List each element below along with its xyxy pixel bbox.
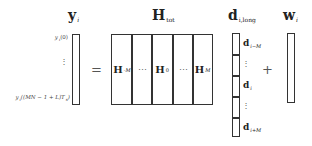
h-symbol: H bbox=[152, 7, 165, 23]
y-entry-top-symbol: y bbox=[55, 34, 58, 40]
w-vector-box bbox=[287, 33, 295, 103]
d-vector-box bbox=[232, 33, 240, 137]
h-subscript: tot bbox=[166, 16, 174, 23]
d-block-vdots-upper: ⋮ bbox=[242, 62, 248, 65]
d-symbol: d bbox=[228, 7, 238, 23]
d-subscript: i,long bbox=[239, 16, 256, 23]
d-block-subscript: i+M bbox=[250, 127, 261, 133]
h-block-dots-right: ⋯ bbox=[173, 35, 193, 104]
y-entry-bottom: yi((MN − 1 + L)Ts) bbox=[15, 94, 70, 102]
h-block-subscript: -M bbox=[124, 67, 131, 73]
d-divider bbox=[233, 75, 239, 77]
w-subscript: i bbox=[296, 16, 298, 23]
y-entry-top-arg: (0) bbox=[60, 34, 68, 40]
d-block-symbol: d bbox=[243, 38, 249, 48]
d-divider bbox=[233, 117, 239, 119]
d-block-vdots-lower: ⋮ bbox=[242, 104, 248, 107]
d-block-i: di bbox=[243, 80, 252, 91]
d-block-subscript: i bbox=[250, 85, 252, 91]
h-block-symbol: H bbox=[195, 64, 204, 75]
y-entry-top: yi(0) bbox=[55, 34, 68, 42]
h-block-dots-left: ⋯ bbox=[132, 35, 152, 104]
h-matrix-title: Htot bbox=[152, 8, 175, 27]
y-subscript: i bbox=[77, 16, 79, 23]
plus-sign: + bbox=[262, 62, 273, 77]
y-vector-title: yi bbox=[68, 8, 79, 27]
d-block-subscript: i−M bbox=[250, 43, 261, 49]
d-divider bbox=[233, 54, 239, 56]
w-symbol: w bbox=[283, 7, 295, 23]
h-block-subscript: 0 bbox=[166, 67, 169, 73]
y-entry-bottom-arg: ((MN − 1 + L)T bbox=[21, 94, 65, 100]
d-vector-title: di,long bbox=[228, 8, 256, 27]
h-matrix-box: H-M ⋯ H0 ⋯ HM bbox=[111, 34, 213, 105]
h-block-symbol: H bbox=[155, 64, 164, 75]
y-vector-box bbox=[72, 34, 80, 105]
d-block-i-minus-m: di−M bbox=[243, 38, 261, 49]
equals-sign: = bbox=[91, 62, 102, 77]
w-vector-title: wi bbox=[283, 8, 298, 27]
d-divider bbox=[233, 96, 239, 98]
d-block-i-plus-m: di+M bbox=[243, 122, 261, 133]
h-block-zero: H0 bbox=[152, 35, 172, 104]
y-symbol: y bbox=[68, 7, 76, 23]
h-block-symbol: H bbox=[113, 64, 122, 75]
h-block-m: HM bbox=[193, 35, 212, 104]
y-entry-bottom-symbol: y bbox=[15, 94, 18, 100]
y-entry-vdots: ⋮ bbox=[60, 60, 68, 63]
y-entry-bottom-arg-end: ) bbox=[68, 94, 70, 100]
h-block-subscript: M bbox=[205, 67, 210, 73]
d-block-symbol: d bbox=[243, 80, 249, 90]
h-block-minus-m: H-M bbox=[112, 35, 132, 104]
d-block-symbol: d bbox=[243, 122, 249, 132]
